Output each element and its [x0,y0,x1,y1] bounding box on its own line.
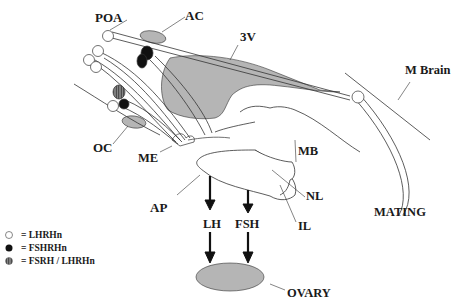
label-me: ME [138,151,158,165]
lhrh-neuron [352,91,364,103]
legend: = LHRHn = FSHRHn = FSRH / LHRHn [6,230,96,266]
hypothalamic-pituitary-diagram: POA AC 3V M Brain OC ME MB AP NL IL MATI… [0,0,464,302]
optic-chiasm [121,114,146,129]
label-fsh: FSH [235,217,260,231]
label-m-brain: M Brain [405,63,451,77]
hatched-circle-icon [6,258,13,265]
lhrh-neuron [93,46,104,57]
fsrh-lhrh-neuron [113,85,125,99]
label-poa: POA [95,10,123,25]
label-ovary: OVARY [287,286,331,300]
label-oc: OC [93,140,113,155]
label-ac: AC [185,8,204,23]
open-circle-icon [6,232,13,239]
label-ap: AP [150,200,167,215]
fshrh-neuron [137,54,147,68]
ovary [196,263,264,291]
label-nl: NL [306,189,323,203]
lhrh-neuron [108,101,119,112]
label-lh: LH [203,217,221,231]
legend-item-fshrhn: = FSHRHn [21,243,68,253]
label-il: IL [298,219,311,233]
label-mating: MATING [374,205,426,219]
lhrh-neuron [91,62,102,73]
fshrh-neuron [119,99,129,109]
filled-circle-icon [6,245,13,252]
label-mb: MB [298,144,318,158]
legend-item-lhrhn: = LHRHn [21,230,63,240]
lhrh-neuron [103,31,114,42]
legend-item-fsrh-lhrhn: = FSRH / LHRHn [21,256,95,266]
label-3v: 3V [240,29,257,44]
third-ventricle-region [162,56,341,119]
